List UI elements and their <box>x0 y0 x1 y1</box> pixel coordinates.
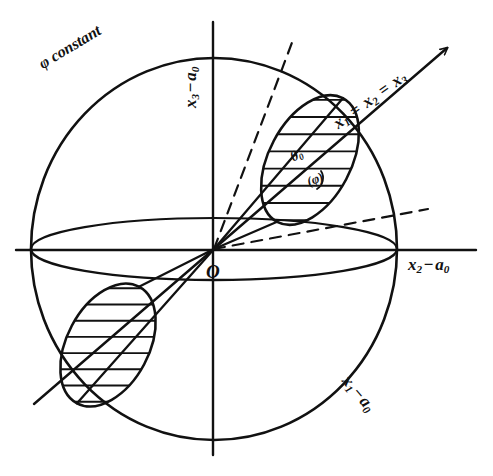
label-axis-x3: x3−a0 <box>182 67 201 108</box>
label-x3-a: a <box>181 72 200 81</box>
lower-cone-hatching <box>19 256 197 434</box>
label-x2-a: a <box>435 255 444 274</box>
label-origin: O <box>206 262 220 281</box>
label-x3-sub: 3 <box>189 94 201 100</box>
upper-cone-generator-a <box>214 98 343 249</box>
label-x2-asub: 0 <box>444 263 450 275</box>
label-axis-x2: x2−a0 <box>408 256 449 275</box>
label-x2-op: − <box>422 255 435 274</box>
label-x3-asub: 0 <box>189 67 201 73</box>
label-x2-base: x <box>408 255 417 274</box>
diagram-vector-layer <box>0 0 493 476</box>
lower-cone-cross-section <box>41 267 175 422</box>
figure-canvas: φ constant x3−a0 x2−a0 x1−a0 x1 = x2 = x… <box>0 0 493 476</box>
label-x3-base: x <box>181 100 200 109</box>
label-x3-op: − <box>181 81 200 94</box>
